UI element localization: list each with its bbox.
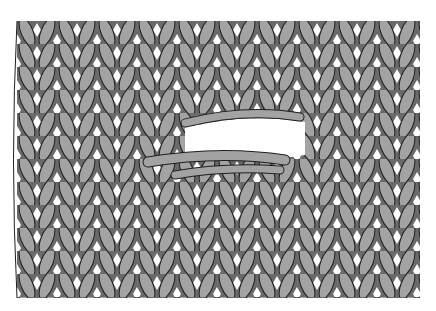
knitting-illustration [0, 0, 436, 311]
